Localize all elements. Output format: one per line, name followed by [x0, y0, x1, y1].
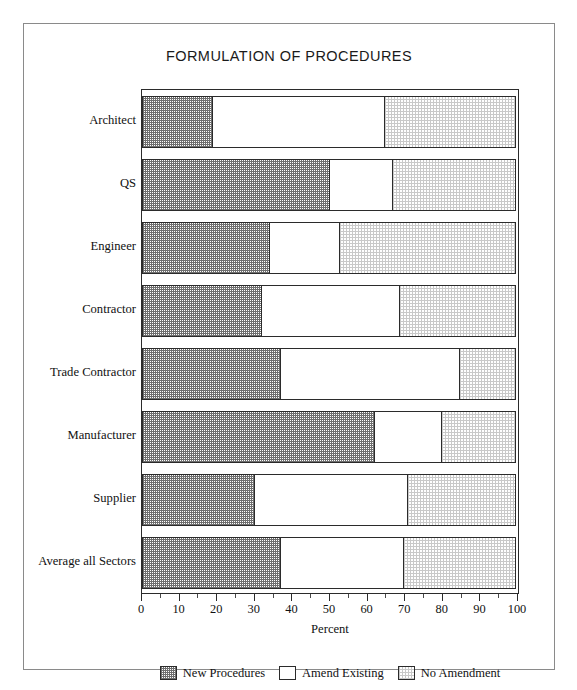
- x-tick-minor: [310, 594, 311, 598]
- x-tick-label: 70: [398, 602, 410, 617]
- x-tick-minor: [197, 594, 198, 598]
- x-tick-major: [216, 594, 217, 601]
- bar-segment: [142, 96, 213, 148]
- x-tick-minor: [160, 594, 161, 598]
- bar-segment: [407, 474, 516, 526]
- legend: New ProceduresAmend ExistingNo Amendment: [141, 662, 519, 684]
- x-axis-tick-labels: 0102030405060708090100: [141, 602, 519, 620]
- legend-label: Amend Existing: [302, 666, 384, 681]
- chart-title: FORMULATION OF PROCEDURES: [24, 48, 554, 64]
- x-tick-minor: [461, 594, 462, 598]
- bar-segment: [142, 348, 281, 400]
- y-axis-label: Manufacturer: [24, 428, 136, 443]
- figure-frame: FORMULATION OF PROCEDURES ArchitectQSEng…: [23, 23, 555, 670]
- x-tick-major: [329, 594, 330, 601]
- legend-swatch: [279, 666, 296, 680]
- x-tick-minor: [273, 594, 274, 598]
- y-axis-category-labels: ArchitectQSEngineerContractorTrade Contr…: [24, 89, 136, 594]
- bar-row: [142, 159, 518, 211]
- bar-segment: [441, 411, 516, 463]
- bar-segment: [280, 537, 404, 589]
- x-tick-major: [517, 594, 518, 601]
- x-tick-label: 0: [138, 602, 144, 617]
- x-tick-label: 60: [360, 602, 372, 617]
- bar-segment: [403, 537, 516, 589]
- x-tick-minor: [348, 594, 349, 598]
- bar-segment: [399, 285, 516, 337]
- x-tick-label: 90: [473, 602, 485, 617]
- legend-swatch: [160, 666, 177, 680]
- bar-segment: [142, 537, 281, 589]
- bar-segment: [142, 222, 270, 274]
- legend-item: No Amendment: [398, 666, 501, 681]
- legend-swatch: [398, 666, 415, 680]
- x-tick-label: 40: [285, 602, 297, 617]
- bar-segment: [261, 285, 400, 337]
- bar-segment: [142, 474, 255, 526]
- x-tick-major: [479, 594, 480, 601]
- x-tick-label: 30: [248, 602, 260, 617]
- x-tick-label: 20: [210, 602, 222, 617]
- bar-segment: [212, 96, 385, 148]
- legend-label: New Procedures: [183, 666, 265, 681]
- bar-row: [142, 474, 518, 526]
- y-axis-label: Average all Sectors: [24, 554, 136, 569]
- x-tick-label: 50: [323, 602, 335, 617]
- bar-row: [142, 348, 518, 400]
- x-tick-major: [179, 594, 180, 601]
- x-tick-label: 100: [508, 602, 527, 617]
- x-tick-minor: [498, 594, 499, 598]
- bar-segment: [459, 348, 515, 400]
- bar-segment: [374, 411, 442, 463]
- bar-segment: [384, 96, 516, 148]
- y-axis-label: Contractor: [24, 302, 136, 317]
- y-axis-label: Supplier: [24, 491, 136, 506]
- bar-segment: [392, 159, 516, 211]
- x-tick-major: [404, 594, 405, 601]
- bar-row: [142, 222, 518, 274]
- x-tick-label: 80: [436, 602, 448, 617]
- y-axis-label: Engineer: [24, 239, 136, 254]
- bars-layer: [142, 90, 518, 593]
- x-axis-title: Percent: [141, 622, 519, 637]
- bar-segment: [142, 159, 330, 211]
- x-tick-label: 10: [172, 602, 184, 617]
- plot-area: [141, 89, 519, 594]
- legend-item: Amend Existing: [279, 666, 384, 681]
- bar-segment: [254, 474, 408, 526]
- x-tick-major: [442, 594, 443, 601]
- bar-segment: [280, 348, 460, 400]
- bar-row: [142, 537, 518, 589]
- x-tick-major: [291, 594, 292, 601]
- bar-segment: [269, 222, 340, 274]
- x-tick-minor: [385, 594, 386, 598]
- x-tick-major: [141, 594, 142, 601]
- bar-segment: [339, 222, 516, 274]
- y-axis-label: Architect: [24, 113, 136, 128]
- x-tick-minor: [235, 594, 236, 598]
- y-axis-label: Trade Contractor: [24, 365, 136, 380]
- legend-label: No Amendment: [421, 666, 501, 681]
- x-tick-minor: [423, 594, 424, 598]
- bar-segment: [142, 285, 262, 337]
- bar-row: [142, 285, 518, 337]
- x-tick-major: [367, 594, 368, 601]
- bar-row: [142, 411, 518, 463]
- x-tick-major: [254, 594, 255, 601]
- y-axis-label: QS: [24, 176, 136, 191]
- legend-item: New Procedures: [160, 666, 265, 681]
- bar-row: [142, 96, 518, 148]
- bar-segment: [142, 411, 375, 463]
- bar-segment: [329, 159, 393, 211]
- x-axis-ticks: [141, 594, 519, 601]
